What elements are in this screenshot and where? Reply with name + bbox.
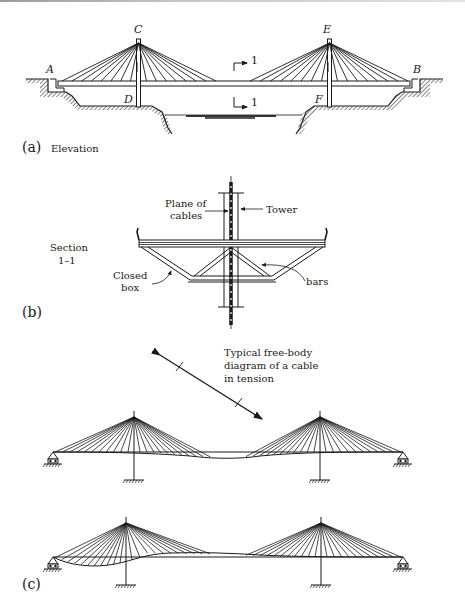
cable — [260, 43, 329, 81]
cable — [139, 43, 177, 81]
section-mark-top-label: 1 — [251, 54, 258, 67]
deck-slab — [139, 240, 325, 247]
roller-support — [398, 452, 408, 459]
cable — [330, 43, 368, 81]
bridge-model-symmetric — [43, 411, 412, 483]
section-mark-top — [234, 63, 247, 71]
point-label-F: F — [314, 93, 323, 106]
cable — [139, 43, 207, 81]
cable — [55, 417, 134, 452]
cable — [126, 523, 210, 554]
deck — [58, 81, 410, 86]
callout-closed-box-line2: box — [121, 282, 139, 293]
panel-b-tag: (b) — [22, 304, 42, 320]
roller-support — [398, 557, 408, 564]
cable — [134, 417, 203, 456]
cable — [321, 523, 386, 557]
cable — [294, 523, 321, 557]
cable — [62, 43, 139, 81]
deflected-deck — [53, 452, 403, 458]
cable — [81, 523, 126, 565]
cable — [320, 417, 386, 452]
figure-root: 1 1 C E A B D F (a) Elevation — [0, 0, 465, 607]
bridge-model-antisymmetric — [43, 517, 412, 588]
point-label-C: C — [134, 23, 143, 36]
cable — [321, 523, 401, 557]
cable — [134, 417, 175, 455]
panel-c-tag: (c) — [22, 576, 41, 592]
cable — [101, 43, 138, 81]
callout-closed-box-line1: Closed — [113, 270, 148, 281]
cable — [72, 43, 139, 81]
cable — [321, 523, 379, 557]
roller-support — [48, 452, 58, 459]
annotation-line3: in tension — [224, 373, 275, 384]
cable — [77, 417, 134, 452]
point-label-D: D — [123, 93, 133, 106]
callout-bars: bars — [306, 276, 328, 287]
cable — [274, 523, 321, 556]
cable — [134, 417, 189, 456]
cable — [320, 417, 371, 452]
section-title-line1: Section — [50, 242, 89, 253]
cable — [106, 417, 134, 452]
cable — [330, 43, 409, 81]
cable — [246, 523, 321, 555]
cable — [320, 417, 349, 452]
deflected-deck — [53, 553, 403, 566]
panel-b-section: Plane of cables Tower Closed box bars Se… — [22, 176, 328, 329]
section-mark-bottom — [234, 97, 247, 107]
cable — [84, 417, 134, 452]
callout-plane-of-cables-line2: cables — [170, 210, 202, 221]
cable — [321, 523, 371, 557]
cable — [321, 523, 349, 557]
cable — [139, 43, 217, 81]
section-mark-bottom-label: 1 — [251, 96, 258, 109]
panel-c-deflected: Typical free-body diagram of a cable in … — [22, 347, 412, 592]
roller-support — [48, 557, 58, 564]
annotation-line1: Typical free-body — [224, 347, 312, 358]
cable — [126, 523, 187, 553]
callout-tower: Tower — [266, 204, 297, 215]
cable — [330, 43, 398, 81]
cable — [126, 523, 179, 553]
cable — [291, 43, 330, 81]
cable — [320, 417, 379, 452]
section-title-line2: 1–1 — [58, 255, 76, 266]
cable — [266, 417, 320, 455]
point-label-B: B — [412, 63, 421, 76]
annotation-line2: diagram of a cable — [224, 360, 319, 371]
cables-elevation — [62, 43, 408, 81]
panel-a-caption: Elevation — [51, 143, 99, 154]
cable — [70, 417, 134, 452]
panel-a-tag: (a) — [22, 139, 41, 155]
panel-a-elevation: 1 1 C E A B D F (a) Elevation — [22, 23, 443, 155]
cable — [253, 417, 320, 456]
cable — [267, 523, 321, 556]
cable — [250, 43, 330, 81]
point-label-A: A — [45, 63, 54, 76]
callout-plane-of-cables-line1: Plane of — [165, 198, 207, 209]
bridge-figure: 1 1 C E A B D F (a) Elevation — [0, 0, 465, 607]
point-label-E: E — [322, 23, 331, 36]
cable — [320, 417, 401, 452]
